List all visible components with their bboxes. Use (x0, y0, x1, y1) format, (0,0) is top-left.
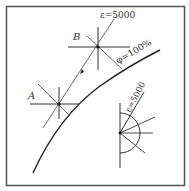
point-a-label: A (27, 90, 35, 101)
point-b-label: B (72, 31, 80, 42)
path-epsilon-label: ε=5000 (100, 10, 135, 20)
phi-curve (33, 50, 160, 173)
point-a-rosette (30, 84, 79, 119)
fan-epsilon-label: ε=5000 (123, 80, 147, 114)
curve-phi-label: φ=100% (114, 37, 154, 66)
diagram-canvas: A B ε=5000 φ=100% ε=5000 (0, 0, 189, 191)
